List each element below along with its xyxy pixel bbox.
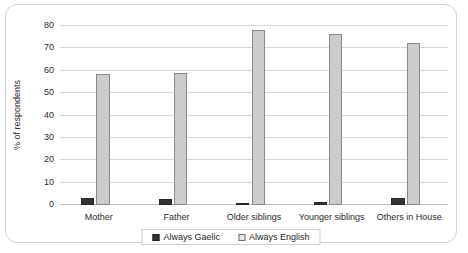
outlined-light-square-icon [238, 234, 245, 241]
x-axis-category-label: Others in House [377, 212, 442, 222]
bar-group: Older siblings [215, 26, 293, 205]
x-axis-category-label: Older siblings [227, 212, 282, 222]
bar-group: Others in House [370, 26, 448, 205]
y-axis-tick-label: 60 [44, 65, 54, 75]
y-axis-tick-label: 10 [44, 177, 54, 187]
x-axis-category-label: Father [163, 212, 189, 222]
x-axis-category-label: Younger siblings [299, 212, 365, 222]
bar[interactable] [391, 198, 404, 205]
legend-label: Always English [249, 232, 310, 242]
legend-label: Always Gaelic [163, 232, 220, 242]
bar[interactable] [407, 43, 420, 205]
bar[interactable] [314, 202, 327, 205]
legend-item-always-english[interactable]: Always English [238, 232, 310, 242]
bar[interactable] [159, 199, 172, 205]
bar-group: Father [138, 26, 216, 205]
plot-area: 01020304050607080 MotherFatherOlder sibl… [60, 26, 448, 205]
y-axis-tick-label: 50 [44, 87, 54, 97]
y-axis-tick-label: 30 [44, 132, 54, 142]
chart-container: % of respondents 01020304050607080 Mothe… [5, 4, 457, 243]
y-axis-tick-label: 0 [49, 199, 54, 209]
y-axis-title: % of respondents [12, 80, 22, 150]
bar[interactable] [96, 74, 109, 205]
bar-group: Younger siblings [293, 26, 371, 205]
y-axis-tick-label: 70 [44, 42, 54, 52]
bar[interactable] [236, 203, 249, 205]
bar[interactable] [329, 34, 342, 205]
bar-group: Mother [60, 26, 138, 205]
y-axis-tick-label: 80 [44, 20, 54, 30]
chart-legend: Always Gaelic Always English [141, 229, 320, 245]
bar[interactable] [174, 73, 187, 205]
y-axis-tick-label: 40 [44, 110, 54, 120]
bar[interactable] [252, 30, 265, 205]
filled-dark-square-icon [152, 234, 159, 241]
legend-item-always-gaelic[interactable]: Always Gaelic [152, 232, 220, 242]
y-axis-tick-label: 20 [44, 154, 54, 164]
bar[interactable] [81, 198, 94, 205]
x-axis-category-label: Mother [85, 212, 113, 222]
